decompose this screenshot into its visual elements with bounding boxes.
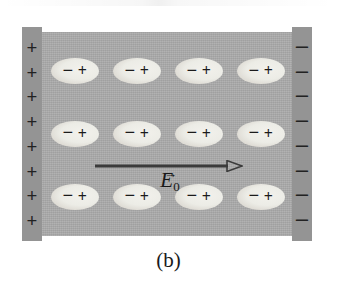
plate-charge-plus: + (27, 162, 38, 181)
dipole-negative-sign: − (125, 124, 136, 141)
plate-charge-minus: − (295, 185, 310, 206)
dipole: − + (175, 121, 223, 147)
plate-charge-minus: − (295, 161, 310, 182)
figure-caption: (b) (0, 250, 337, 271)
dipole-positive-sign: + (264, 189, 273, 205)
right-plate-negative: − − − − − − − − (292, 27, 312, 241)
dipole-negative-sign: − (63, 62, 74, 79)
dipole: − + (51, 58, 99, 84)
dipole: − + (237, 121, 285, 147)
plate-charge-minus: − (295, 62, 310, 83)
plate-charge-plus: + (27, 63, 38, 82)
plate-charge-plus: + (27, 137, 38, 156)
field-symbol: E (160, 168, 173, 192)
dipole-negative-sign: − (63, 187, 74, 204)
dipole-positive-sign: + (78, 126, 87, 142)
dipole-grid: − + − + − + − + − + − + − + − + (44, 40, 292, 228)
dipole-positive-sign: + (202, 189, 211, 205)
plate-charge-plus: + (27, 112, 38, 131)
dipole: − + (237, 58, 285, 84)
dipole-positive-sign: + (264, 63, 273, 79)
plate-charge-minus: − (295, 86, 310, 107)
dipole-positive-sign: + (264, 126, 273, 142)
plate-charge-minus: − (295, 111, 310, 132)
dipole: − + (51, 184, 99, 210)
left-plate-positive: + + + + + + + + (22, 27, 42, 241)
dipole-negative-sign: − (63, 124, 74, 141)
dipole-negative-sign: − (249, 187, 260, 204)
plate-charge-plus: + (27, 186, 38, 205)
dipole-positive-sign: + (78, 189, 87, 205)
dipole-negative-sign: − (187, 62, 198, 79)
dipole: − + (113, 58, 161, 84)
dipole: − + (175, 58, 223, 84)
dipole-negative-sign: − (249, 124, 260, 141)
plate-charge-minus: − (295, 136, 310, 157)
dipole-positive-sign: + (202, 63, 211, 79)
plate-charge-plus: + (27, 87, 38, 106)
dipole-positive-sign: + (202, 126, 211, 142)
dipole-positive-sign: + (140, 126, 149, 142)
dipole-positive-sign: + (78, 63, 87, 79)
dipole-positive-sign: + (140, 63, 149, 79)
field-label-E0: → E0 (140, 170, 200, 193)
figure-panel-b: + + + + + + + + − − − − − − − − − + − + … (0, 0, 337, 297)
dipole-negative-sign: − (249, 62, 260, 79)
dipole-negative-sign: − (125, 187, 136, 204)
dipole: − + (113, 121, 161, 147)
plate-charge-plus: + (27, 211, 38, 230)
dipole-negative-sign: − (125, 62, 136, 79)
dipole: − + (51, 121, 99, 147)
dipole: − + (237, 184, 285, 210)
plate-charge-minus: − (295, 37, 310, 58)
plate-charge-minus: − (295, 210, 310, 231)
plate-charge-plus: + (27, 38, 38, 57)
field-subscript: 0 (173, 179, 180, 194)
dipole-negative-sign: − (187, 124, 198, 141)
scan-artifact (0, 0, 337, 6)
